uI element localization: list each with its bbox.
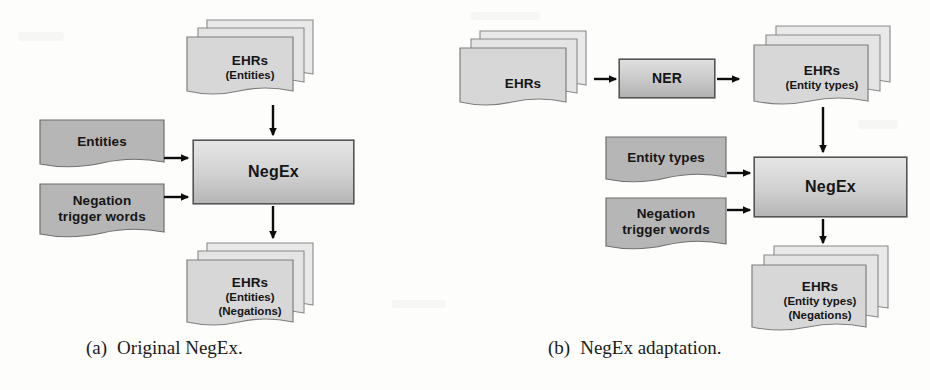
caption-a-text: Original NegEx. bbox=[117, 337, 243, 358]
caption-b: (b)NegEx adaptation. bbox=[548, 337, 722, 359]
flow-arrows-layer bbox=[0, 0, 930, 390]
caption-b-id: (b) bbox=[548, 337, 570, 358]
caption-b-text: NegEx adaptation. bbox=[580, 337, 721, 358]
caption-a: (a)Original NegEx. bbox=[86, 337, 243, 359]
figure-negex-pipelines: EHRs (Entities) Entities Negation trigge… bbox=[0, 0, 930, 390]
caption-a-id: (a) bbox=[86, 337, 107, 358]
